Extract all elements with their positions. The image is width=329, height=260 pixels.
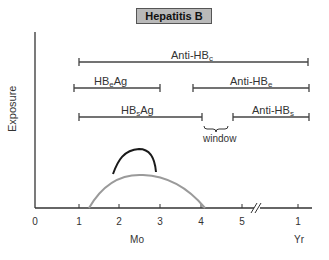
window-brace-icon	[204, 126, 228, 132]
label-anti-hbs: Anti-HBs	[252, 105, 294, 118]
hepatitis-b-diagram: Hepatitis B Exposure Anti-HBc HBeAg Anti…	[0, 0, 329, 260]
tick-label-1-yr: 1	[295, 217, 301, 227]
tick-label-5: 5	[239, 217, 245, 227]
diagram-graphics	[0, 0, 329, 260]
label-anti-hbe: Anti-HBe	[230, 76, 272, 89]
x-axis-label-months: Mo	[130, 235, 144, 245]
label-anti-hbc: Anti-HBc	[171, 50, 213, 63]
label-hbeag: HBeAg	[94, 76, 127, 89]
alt-curve	[89, 175, 205, 208]
tick-label-0: 0	[32, 217, 38, 227]
tick-label-2: 2	[116, 217, 122, 227]
tick-label-3: 3	[157, 217, 163, 227]
window-label: window	[203, 134, 236, 144]
label-hbsag: HBsAg	[121, 105, 154, 118]
tick-label-4: 4	[198, 217, 204, 227]
x-axis-label-year: Yr	[294, 235, 304, 245]
tick-label-1: 1	[76, 217, 82, 227]
symptoms-curve	[113, 149, 156, 174]
